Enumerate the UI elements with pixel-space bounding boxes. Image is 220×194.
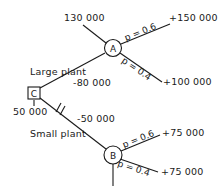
node-c-label: C — [31, 89, 37, 99]
small-plant-cost: -50 000 — [77, 114, 115, 124]
node-a-label: A — [110, 44, 117, 54]
small-plant-label: Small plant — [30, 129, 86, 139]
a-value-line — [83, 25, 106, 43]
a-incoming-value: 130 000 — [64, 13, 105, 23]
a-payoff-high: +150 000 — [169, 13, 218, 23]
a-prob-high: p = 0.6 — [123, 21, 158, 43]
decision-tree-diagram: C A B p = 0.6 p = 0.4 p = 0.6 p = 0.4 13… — [0, 0, 220, 194]
b-prob-high: p = 0.6 — [121, 128, 156, 150]
tree-lines: C A B p = 0.6 p = 0.4 p = 0.6 p = 0.4 — [0, 0, 220, 194]
a-payoff-low: +100 000 — [163, 77, 212, 87]
large-plant-label: Large plant — [30, 67, 86, 77]
a-prob-low: p = 0.4 — [120, 55, 153, 82]
b-payoff-low: +75 000 — [161, 167, 204, 177]
decision-value: 50 000 — [13, 107, 47, 117]
large-plant-cost: -80 000 — [73, 78, 111, 88]
b-prob-low: p = 0.4 — [116, 158, 151, 178]
b-payoff-high: +75 000 — [162, 128, 205, 138]
prune-mark-1 — [56, 103, 61, 112]
prune-mark-2 — [60, 106, 65, 115]
node-b-label: B — [110, 151, 116, 161]
